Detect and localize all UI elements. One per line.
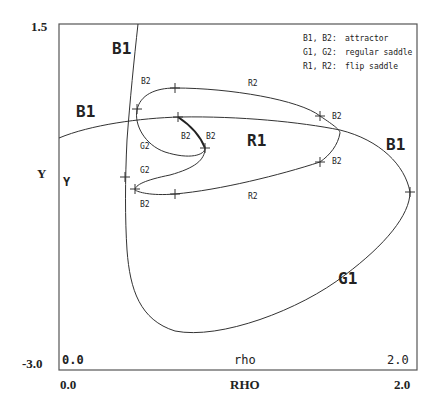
- y-axis-label: Y: [37, 166, 47, 181]
- y-tick-bottom: -3.0: [22, 356, 43, 371]
- inner-x-tick-left: 0.0: [62, 353, 84, 367]
- label-g1: G1: [338, 269, 357, 288]
- label-b1-top: B1: [112, 39, 131, 58]
- inner-y-axis-label: Y: [63, 175, 71, 189]
- label-b1-left: B1: [76, 102, 95, 121]
- label-r2-top: R2: [248, 79, 258, 88]
- y-tick-top: 1.5: [31, 19, 48, 34]
- bifurcation-diagram: 1.5 -3.0 Y 0.0 2.0 RHO 0.0 2.0 rho Y B1,…: [0, 0, 438, 414]
- label-r2-bottom: R2: [248, 192, 258, 201]
- plot-frame: [59, 24, 417, 370]
- inner-x-axis-label: rho: [234, 353, 256, 367]
- label-b1-right: B1: [386, 135, 405, 154]
- label-b2-inner-right: B2: [206, 132, 216, 141]
- curve-b2-upper: [135, 88, 340, 195]
- inner-x-tick-right: 2.0: [387, 353, 409, 367]
- x-tick-right: 2.0: [394, 377, 410, 392]
- legend-codes-1: B1, B2:: [303, 34, 337, 43]
- label-g2-lower: G2: [140, 166, 150, 175]
- label-b2-right-lower: B2: [332, 157, 342, 166]
- curve-b1-arc: [59, 117, 410, 192]
- legend-text-2: regular saddle: [345, 48, 413, 57]
- legend-codes-3: R1, R2:: [303, 62, 337, 71]
- label-r1: R1: [247, 131, 266, 150]
- branch-point-markers: [120, 83, 415, 199]
- label-b2-inner-left: B2: [181, 132, 191, 141]
- label-b2-bottom-left: B2: [140, 200, 150, 209]
- x-tick-left: 0.0: [60, 377, 76, 392]
- label-g2-upper: G2: [140, 142, 150, 151]
- legend: B1, B2: attractor G1, G2: regular saddle…: [303, 34, 413, 71]
- legend-text-3: flip saddle: [345, 62, 398, 71]
- label-b2-top-left: B2: [141, 77, 151, 86]
- legend-text-1: attractor: [345, 34, 389, 43]
- label-b2-right-upper: B2: [332, 112, 342, 121]
- legend-codes-2: G1, G2:: [303, 48, 337, 57]
- x-axis-label: RHO: [230, 377, 260, 392]
